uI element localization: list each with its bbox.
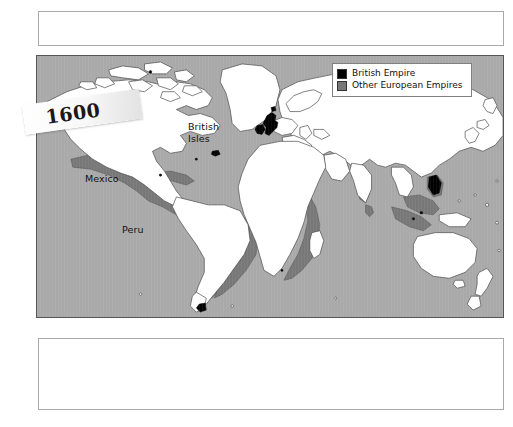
caption-box-bottom xyxy=(38,338,504,410)
map-label-mexico: Mexico xyxy=(85,173,119,185)
legend-label-other-european-empires: Other European Empires xyxy=(352,80,463,91)
map-legend: British Empire Other European Empires xyxy=(332,63,472,97)
legend-item-other-european-empires: Other European Empires xyxy=(337,80,467,91)
legend-swatch-british-empire xyxy=(337,69,347,79)
map-label-peru: Peru xyxy=(122,224,144,236)
legend-swatch-other-european-empires xyxy=(337,81,347,91)
page-root: British Isles Mexico Peru British Empire… xyxy=(0,0,513,427)
year-banner-label: 1600 xyxy=(44,98,101,127)
legend-label-british-empire: British Empire xyxy=(352,68,415,79)
map-label-british-isles: British Isles xyxy=(188,121,219,144)
caption-box-top xyxy=(38,11,504,46)
world-map-figure: British Isles Mexico Peru British Empire… xyxy=(36,55,504,318)
legend-item-british-empire: British Empire xyxy=(337,68,467,79)
